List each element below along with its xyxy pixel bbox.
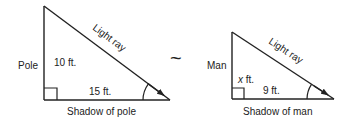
- pole-shadow-label: Shadow of pole: [67, 106, 136, 117]
- man-height-unit: ft.: [243, 74, 254, 85]
- pole-label: Pole: [18, 60, 38, 71]
- man-light-ray-arrow-icon: [314, 86, 328, 95]
- pole-triangle: Pole 10 ft. 15 ft. Shadow of pole Light …: [18, 6, 170, 117]
- similarity-symbol: ~: [170, 47, 182, 69]
- man-height-label: x ft.: [237, 74, 254, 85]
- man-triangle: Man x ft. 9 ft. Shadow of man Light ray: [207, 32, 334, 117]
- man-shadow-label: Shadow of man: [243, 106, 313, 117]
- similar-triangles-diagram: Pole 10 ft. 15 ft. Shadow of pole Light …: [0, 0, 354, 127]
- pole-angle-arc-icon: [143, 84, 148, 100]
- pole-right-angle-icon: [44, 88, 57, 100]
- man-angle-arc-icon: [307, 84, 312, 99]
- pole-shadow-length-label: 15 ft.: [89, 86, 111, 97]
- man-right-angle-icon: [232, 88, 244, 99]
- man-shadow-length-label: 9 ft.: [263, 85, 280, 96]
- man-light-ray-label: Light ray: [267, 35, 305, 65]
- man-label: Man: [207, 60, 226, 71]
- pole-light-ray-arrow-icon: [148, 84, 164, 96]
- pole-height-label: 10 ft.: [54, 57, 76, 68]
- pole-light-ray-label: Light ray: [91, 22, 128, 54]
